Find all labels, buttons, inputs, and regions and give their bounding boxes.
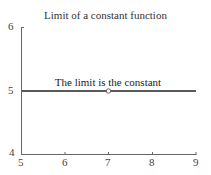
limit-annotation: The limit is the constant [0, 76, 211, 88]
x-tick-label-8: 8 [149, 156, 155, 168]
x-tick-label-6: 6 [62, 156, 68, 168]
x-tick-label-5: 5 [18, 156, 24, 168]
y-tick-label-6: 6 [8, 20, 14, 32]
x-tick-label-7: 7 [105, 156, 111, 168]
x-tick-label-9: 9 [193, 156, 199, 168]
open-point-marker [106, 89, 110, 93]
y-tick-label-4: 4 [9, 146, 15, 158]
y-tick-label-5: 5 [8, 84, 14, 96]
